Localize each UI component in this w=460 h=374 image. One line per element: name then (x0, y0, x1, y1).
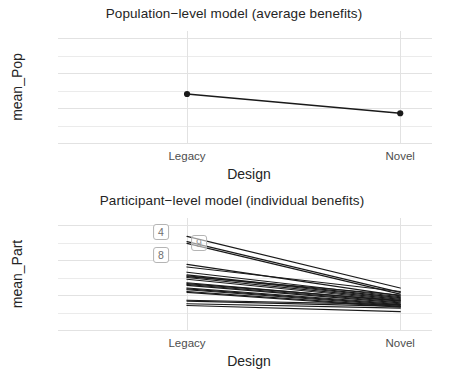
y-axis-label-participant: mean_Part (9, 240, 25, 308)
plot-area-population: 0204060 (58, 31, 432, 143)
panel-participant-level: Participant−level model (individual bene… (0, 187, 460, 374)
x-axis-tick-label: Legacy (168, 337, 205, 349)
gridline-horizontal-major (58, 143, 432, 144)
y-axis-label-population: mean_Pop (9, 53, 25, 121)
x-axis-label-population: Design (0, 166, 460, 182)
panel-title-population: Population−level model (average benefits… (0, 6, 460, 21)
plot-area-participant: 0204060489 (58, 218, 432, 330)
panel-population-level: Population−level model (average benefits… (0, 0, 460, 187)
gridline-horizontal-major (58, 330, 432, 331)
data-point-label: 4 (153, 224, 169, 240)
data-point-marker (184, 91, 190, 97)
y-axis-label-participant-wrap: mean_Part (6, 218, 28, 330)
x-axis-tick-label: Novel (386, 150, 415, 162)
panel-title-participant: Participant−level model (individual bene… (0, 193, 460, 208)
x-axis-label-participant: Design (0, 353, 460, 369)
y-axis-label-population-wrap: mean_Pop (6, 31, 28, 143)
data-point-marker (397, 110, 403, 116)
data-point-label: 8 (153, 247, 169, 263)
x-axis-tick-label: Novel (386, 337, 415, 349)
data-series-layer (58, 31, 432, 143)
data-line (187, 94, 400, 113)
x-axis-tick-label: Legacy (168, 150, 205, 162)
data-series-layer (58, 218, 432, 330)
data-point-label: 9 (191, 235, 207, 251)
